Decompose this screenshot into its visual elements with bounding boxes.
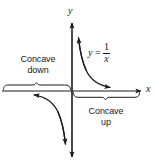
annotation-concave-down-line1: Concave bbox=[9, 54, 67, 65]
y-axis-label: y bbox=[68, 6, 72, 16]
graph-canvas bbox=[0, 0, 156, 162]
equation-fraction: 1 x bbox=[103, 42, 110, 64]
annotation-concave-up-line1: Concave bbox=[77, 106, 135, 117]
annotation-concave-down: Concave down bbox=[9, 54, 67, 75]
equation-equals-sign: = bbox=[95, 48, 101, 58]
annotation-concave-up: Concave up bbox=[77, 106, 135, 127]
concavity-figure: y x y = 1 x Concave down Concave up bbox=[0, 0, 156, 162]
equation-denominator: x bbox=[103, 54, 109, 65]
annotation-concave-up-line2: up bbox=[77, 117, 135, 128]
equation-label: y = 1 x bbox=[88, 42, 110, 64]
equation-numerator: 1 bbox=[103, 42, 110, 53]
annotation-concave-down-line2: down bbox=[9, 65, 67, 76]
brace-concave-up bbox=[74, 93, 140, 100]
equation-lhs: y bbox=[88, 48, 92, 58]
brace-concave-down bbox=[4, 83, 71, 90]
x-axis-label: x bbox=[146, 84, 150, 94]
curve-branch-quadrant-3 bbox=[34, 95, 66, 144]
